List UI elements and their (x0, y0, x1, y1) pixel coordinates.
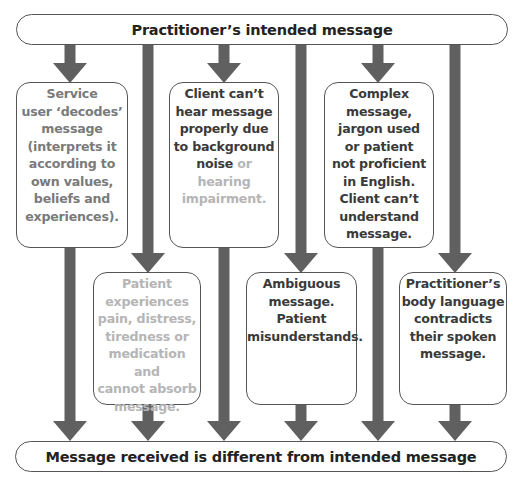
barrier-text-line: cannot absorb (94, 380, 200, 398)
barrier-text-line: tiredness or (94, 328, 200, 346)
barrier-text-line: hearing (170, 173, 278, 191)
barrier-text-line: experiences). (17, 208, 127, 226)
barrier-text-line: message. (247, 293, 356, 311)
barrier-text-line: jargon used (325, 120, 433, 138)
arrow-out-of-row1-box (207, 248, 241, 441)
barrier-text-segment: noise (196, 156, 237, 171)
arrow-head (207, 421, 241, 441)
arrow-into-row1-box (361, 45, 395, 83)
top-box-intended-message: Practitioner’s intended message (16, 14, 508, 45)
arrow-shaft (65, 248, 76, 422)
barrier-text-line: Service (17, 85, 127, 103)
barrier-text-line: (interprets it (17, 138, 127, 156)
barrier-text-line: message. (94, 398, 200, 416)
barrier-text-line: Patient (247, 310, 356, 328)
arrow-shaft (373, 248, 384, 422)
arrow-head (438, 421, 472, 441)
arrow-into-row2-box (131, 45, 165, 273)
barrier-text-line: experiences (94, 293, 200, 311)
barrier-text-line: Client can’t (170, 85, 278, 103)
barrier-text-line: message, (325, 103, 433, 121)
barrier-text-line: properly due (170, 120, 278, 138)
arrow-out-of-row1-box (53, 248, 87, 441)
arrow-shaft (143, 45, 154, 254)
barrier-text-line: hear message (170, 103, 278, 121)
arrow-head (131, 421, 165, 441)
barrier-text-line: contradicts (400, 310, 506, 328)
barrier-text-line: own values, (17, 173, 127, 191)
bottom-box-received-message: Message received is different from inten… (15, 441, 507, 472)
arrow-shaft (296, 405, 307, 422)
barrier-text-line: their spoken (400, 328, 506, 346)
barrier-text-segment-faded: or (237, 156, 251, 171)
barrier-text-line: misunderstands. (247, 328, 356, 346)
barrier-text-line: user ‘decodes’ (17, 103, 127, 121)
arrow-shaft (65, 45, 76, 64)
arrow-out-of-row2-box (438, 405, 472, 441)
arrow-head (284, 253, 318, 273)
barrier-text-line: noise or (170, 155, 278, 173)
arrow-shaft (219, 45, 230, 64)
barrier-box-ambiguous: Ambiguousmessage.Patientmisunderstands. (246, 272, 357, 405)
top-box-label: Practitioner’s intended message (131, 22, 392, 38)
barrier-text-line: not proficient (325, 155, 433, 173)
barrier-text-line: body language (400, 293, 506, 311)
barrier-text-line: understand (325, 208, 433, 226)
arrow-head (53, 421, 87, 441)
barrier-box-complex: Complexmessage,jargon usedor patientnot … (324, 82, 434, 248)
arrow-into-row2-box (438, 45, 472, 273)
arrow-head (361, 63, 395, 83)
arrow-shaft (450, 405, 461, 422)
barrier-box-body-language: Practitioner’sbody languagecontradictsth… (399, 272, 507, 405)
bottom-box-label: Message received is different from inten… (45, 449, 476, 465)
barrier-text-line: message. (400, 345, 506, 363)
barrier-text-line: Practitioner’s (400, 275, 506, 293)
arrow-head (361, 421, 395, 441)
arrow-into-row2-box (284, 45, 318, 273)
arrow-shaft (219, 248, 230, 422)
barrier-text-line: Complex (325, 85, 433, 103)
barrier-box-decodes: Serviceuser ‘decodes’message(interprets … (16, 82, 128, 248)
barrier-text-line: medication and (94, 345, 200, 380)
barrier-box-patient-state: Patientexperiencespain, distress,tiredne… (93, 272, 201, 405)
arrow-shaft (373, 45, 384, 64)
barrier-text-line: Patient (94, 275, 200, 293)
barrier-text-line: message (17, 120, 127, 138)
arrow-head (131, 253, 165, 273)
barrier-text-line: to background (170, 138, 278, 156)
barrier-text-line: beliefs and (17, 190, 127, 208)
arrow-head (438, 253, 472, 273)
arrow-out-of-row2-box (284, 405, 318, 441)
arrow-into-row1-box (207, 45, 241, 83)
arrow-shaft (296, 45, 307, 254)
arrow-head (53, 63, 87, 83)
arrow-head (284, 421, 318, 441)
barrier-box-hearing: Client can’thear messageproperly dueto b… (169, 82, 279, 248)
arrow-into-row1-box (53, 45, 87, 83)
arrow-out-of-row1-box (361, 248, 395, 441)
barrier-text-line: Client can’t (325, 190, 433, 208)
barrier-text-line: or patient (325, 138, 433, 156)
barrier-text-line: according to (17, 155, 127, 173)
barrier-text-line: impairment. (170, 190, 278, 208)
arrow-head (207, 63, 241, 83)
barrier-text-line: pain, distress, (94, 310, 200, 328)
barrier-text-line: message. (325, 225, 433, 243)
arrow-shaft (450, 45, 461, 254)
barrier-text-line: in English. (325, 173, 433, 191)
barrier-text-line: Ambiguous (247, 275, 356, 293)
